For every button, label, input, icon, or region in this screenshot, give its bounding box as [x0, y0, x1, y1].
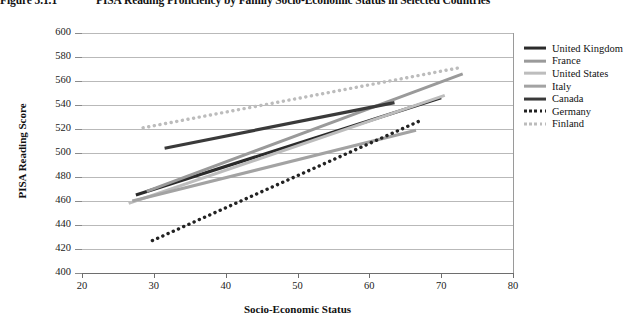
legend-swatch-icon [524, 81, 546, 92]
legend-item-germany[interactable]: Germany [524, 105, 642, 118]
y-tick-label: 540 [27, 98, 71, 109]
y-tick [75, 201, 82, 202]
x-axis-title: Socio-Economic Status [82, 303, 513, 315]
x-tick [441, 273, 442, 278]
legend-swatch-icon [524, 43, 546, 54]
y-tick [75, 33, 82, 34]
x-tick-label: 70 [421, 280, 461, 291]
x-tick [226, 273, 227, 278]
x-tick-label: 30 [134, 280, 174, 291]
gridline [82, 225, 513, 226]
x-tick-label: 50 [278, 280, 318, 291]
legend-label: France [552, 55, 581, 66]
y-axis-title: PISA Reading Score [16, 71, 28, 231]
gridline [82, 105, 513, 106]
pisa-reading-chart: 400420440460480500520540560580600 203040… [0, 0, 642, 327]
legend-label: Finland [552, 118, 584, 129]
chart-legend: United KingdomFranceUnited StatesItalyCa… [524, 42, 642, 130]
legend-label: Germany [552, 106, 591, 117]
x-tick [82, 273, 83, 278]
y-tick-label: 500 [27, 146, 71, 157]
plot-right-border [513, 33, 514, 273]
y-tick [75, 129, 82, 130]
y-tick [75, 81, 82, 82]
legend-item-finland[interactable]: Finland [524, 118, 642, 131]
legend-item-canada[interactable]: Canada [524, 92, 642, 105]
gridline [82, 33, 513, 34]
gridline [82, 129, 513, 130]
y-tick-label: 560 [27, 74, 71, 85]
legend-label: United Kingdom [552, 43, 623, 54]
y-tick [75, 225, 82, 226]
y-tick-label: 440 [27, 218, 71, 229]
gridline [82, 249, 513, 250]
legend-label: United States [552, 68, 608, 79]
x-tick-label: 60 [349, 280, 389, 291]
x-tick-label: 80 [493, 280, 533, 291]
x-tick [369, 273, 370, 278]
legend-item-italy[interactable]: Italy [524, 80, 642, 93]
x-tick [513, 273, 514, 278]
y-tick [75, 273, 82, 274]
gridline [82, 81, 513, 82]
y-tick [75, 177, 82, 178]
legend-item-united-kingdom[interactable]: United Kingdom [524, 42, 642, 55]
legend-label: Canada [552, 93, 584, 104]
x-tick [154, 273, 155, 278]
gridline [82, 201, 513, 202]
x-tick-label: 20 [62, 280, 102, 291]
legend-swatch-icon [524, 68, 546, 79]
legend-item-united-states[interactable]: United States [524, 67, 642, 80]
legend-swatch-icon [524, 93, 546, 104]
y-tick [75, 57, 82, 58]
x-tick-label: 40 [206, 280, 246, 291]
y-tick-label: 520 [27, 122, 71, 133]
y-tick-label: 460 [27, 194, 71, 205]
legend-swatch-icon [524, 118, 546, 129]
y-tick [75, 249, 82, 250]
y-tick-label: 480 [27, 170, 71, 181]
legend-item-france[interactable]: France [524, 55, 642, 68]
y-tick-label: 600 [27, 26, 71, 37]
legend-label: Italy [552, 81, 571, 92]
gridline [82, 177, 513, 178]
y-tick [75, 153, 82, 154]
y-tick-label: 400 [27, 266, 71, 277]
legend-swatch-icon [524, 55, 546, 66]
legend-swatch-icon [524, 106, 546, 117]
y-tick [75, 105, 82, 106]
y-tick-label: 580 [27, 50, 71, 61]
gridline [82, 57, 513, 58]
x-tick [298, 273, 299, 278]
y-tick-label: 420 [27, 242, 71, 253]
gridline [82, 153, 513, 154]
